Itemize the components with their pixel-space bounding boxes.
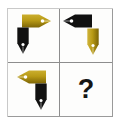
black-nib-down-icon [16,26,30,56]
black-nib-down-icon [34,82,48,112]
puzzle-cell-bottom-left[interactable] [8,63,60,117]
puzzle-grid: ? [8,9,112,116]
puzzle-cell-bottom-right[interactable]: ? [60,63,112,117]
puzzle-frame: ? [7,8,113,117]
puzzle-cell-top-right[interactable] [60,9,112,63]
gold-nib-down-icon [86,27,100,57]
puzzle-cell-top-left[interactable] [8,9,60,63]
question-mark-placeholder: ? [60,63,112,117]
